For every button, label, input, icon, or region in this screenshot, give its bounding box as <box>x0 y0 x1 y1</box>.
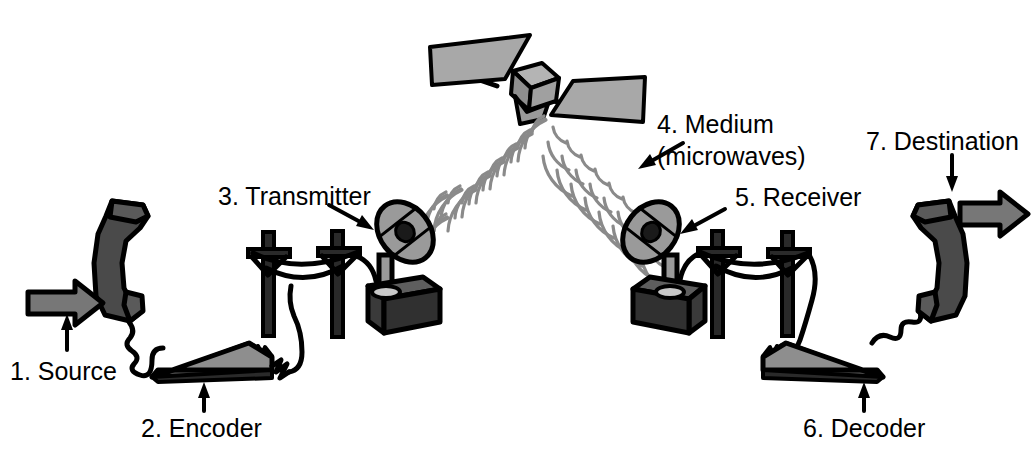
receiver-mast-collar <box>656 286 684 298</box>
handset-earpiece-right <box>913 201 951 222</box>
label-transmitter: 3. Transmitter <box>218 182 371 210</box>
label-medium-line1: 4. Medium <box>657 110 774 138</box>
transmitter-mast-collar <box>372 286 400 298</box>
label-receiver: 5. Receiver <box>735 183 861 211</box>
label-decoder: 6. Decoder <box>803 414 925 442</box>
handset-earpiece-left <box>110 201 148 222</box>
label-destination: 7. Destination <box>866 127 1019 155</box>
label-medium-line2: (microwaves) <box>657 142 806 170</box>
telecommunication-diagram: 1. Source 2. Encoder 3. Transmitter 4. M… <box>0 0 1034 462</box>
label-encoder: 2. Encoder <box>141 414 262 442</box>
label-source: 1. Source <box>10 357 117 385</box>
